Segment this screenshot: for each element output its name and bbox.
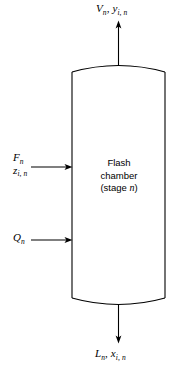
vessel-label-line-2: chamber (72, 170, 166, 183)
vessel-label-line-3: (stage n) (72, 182, 166, 195)
vapor-composition-subscript: i, n (117, 8, 127, 17)
vessel-stage-prefix: (stage (100, 182, 129, 193)
feed-flow-subscript: n (20, 157, 24, 166)
feed-stream-label: Fn zi, n (13, 152, 27, 176)
vessel-body-label: Flash chamber (stage n) (72, 157, 166, 195)
vessel-stage-suffix: ) (134, 182, 137, 193)
feed-composition-subscript: i, n (17, 169, 27, 178)
feed-flow-symbol: F (13, 151, 20, 163)
vapor-stream-label: Vn, yi, n (96, 3, 127, 15)
heat-flow-subscript: n (21, 237, 25, 246)
feed-flow-line: Fn (13, 152, 27, 164)
vessel-label-line-1: Flash (72, 157, 166, 170)
flash-chamber-diagram: Vn, yi, n Ln, xi, n Fn zi, n Qn Flash ch… (0, 0, 178, 366)
feed-composition-line: zi, n (13, 165, 27, 177)
liquid-composition-subscript: i, n (116, 353, 126, 362)
vapor-flow-subscript: n (103, 8, 107, 17)
vessel-bottom-head (72, 298, 165, 305)
heat-duty-label: Qn (13, 232, 25, 244)
liquid-stream-label: Ln, xi, n (95, 348, 126, 360)
vessel-top-head (72, 66, 165, 73)
liquid-flow-subscript: n (101, 353, 105, 362)
vapor-flow-symbol: V (96, 2, 103, 14)
heat-flow-symbol: Q (13, 231, 21, 243)
